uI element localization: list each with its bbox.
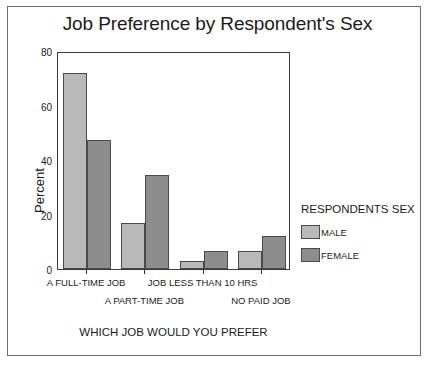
bar-female-2 — [204, 251, 228, 269]
bar-male-0 — [63, 73, 87, 269]
plot-area — [57, 52, 290, 270]
bar-male-1 — [121, 223, 145, 269]
bar-male-3 — [238, 251, 262, 269]
bar-female-3 — [262, 236, 286, 269]
y-axis-tick-labels: 020406080 — [26, 52, 52, 270]
legend-item-female: FEMALE — [301, 248, 421, 262]
legend-item-male: MALE — [301, 225, 421, 239]
chart-title: Job Preference by Respondent's Sex — [0, 13, 429, 35]
x-axis-category-label: A PART-TIME JOB — [105, 295, 184, 306]
x-axis-title: WHICH JOB WOULD YOU PREFER — [57, 326, 290, 338]
x-axis-tick-mark — [86, 270, 87, 274]
x-axis-tick-mark — [144, 270, 145, 274]
x-axis-category-label: NO PAID JOB — [231, 295, 290, 306]
x-axis-category-label: A FULL-TIME JOB — [47, 277, 126, 288]
legend-label: FEMALE — [321, 250, 359, 261]
x-axis-tick-mark — [261, 270, 262, 274]
x-axis-tick-mark — [203, 270, 204, 274]
y-axis-tick-label: 20 — [41, 210, 52, 221]
y-axis-tick-label: 80 — [41, 47, 52, 58]
x-axis-tick-marks — [57, 270, 290, 275]
y-axis-tick-label: 0 — [46, 265, 52, 276]
chart-figure: Job Preference by Respondent's Sex Perce… — [0, 0, 429, 368]
legend-items: MALEFEMALE — [301, 225, 421, 262]
legend-title: RESPONDENTS SEX — [301, 203, 421, 215]
bar-female-1 — [145, 175, 169, 269]
legend-label: MALE — [321, 227, 347, 238]
y-axis-tick-label: 60 — [41, 101, 52, 112]
legend-swatch-female — [301, 248, 320, 262]
bar-female-0 — [87, 140, 111, 269]
legend: RESPONDENTS SEX MALEFEMALE — [301, 203, 421, 271]
y-axis-tick-label: 40 — [41, 156, 52, 167]
bar-male-2 — [180, 261, 204, 269]
legend-swatch-male — [301, 225, 320, 239]
x-axis-category-label: JOB LESS THAN 10 HRS — [148, 277, 258, 288]
